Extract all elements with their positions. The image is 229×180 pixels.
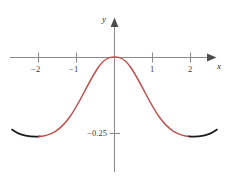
curve-segment-left-black [12, 130, 40, 137]
graph-figure: y x −2 −1 1 2 −0.25 [0, 0, 229, 180]
y-tick-label-minus-025: −0.25 [77, 129, 107, 138]
y-axis-label: y [102, 15, 106, 24]
plot-canvas [0, 0, 229, 180]
x-tick-label-2: 2 [188, 65, 192, 74]
curve-segment-right-black [189, 130, 217, 137]
y-axis-arrow-icon [111, 18, 119, 28]
x-axis-arrow-icon [207, 54, 217, 62]
x-axis-label: x [217, 62, 221, 71]
x-tick-label-1: 1 [150, 65, 154, 74]
x-tick-label-minus2: −2 [31, 65, 40, 74]
x-tick-label-minus1: −1 [69, 65, 78, 74]
